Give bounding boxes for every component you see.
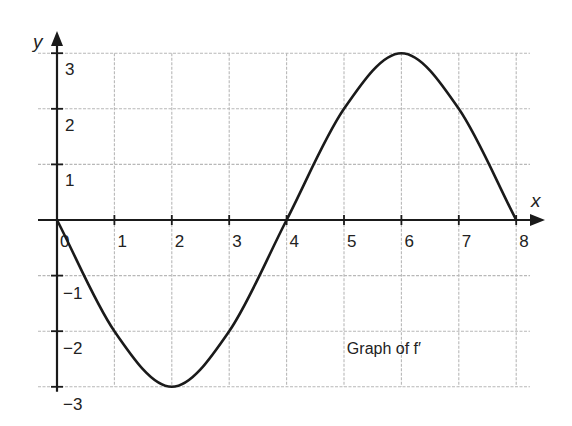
x-tick-label: 8 <box>519 232 528 251</box>
graph-annotation: Graph of f′ <box>347 340 421 357</box>
chart: 012345678−3−2−1123 x y Graph of f′ <box>0 0 572 426</box>
y-axis-label: y <box>31 31 44 52</box>
x-tick-label: 4 <box>290 232 299 251</box>
y-tick-label: −1 <box>63 284 82 303</box>
y-tick-label: 2 <box>65 116 74 135</box>
y-axis-arrow-icon <box>51 31 63 46</box>
x-tick-label: 1 <box>117 232 126 251</box>
y-tick-label: 3 <box>65 60 74 79</box>
x-tick-label: 7 <box>462 232 471 251</box>
x-axis-label: x <box>530 190 542 211</box>
y-tick-label: −3 <box>63 395 82 414</box>
x-tick-label: 3 <box>232 232 241 251</box>
x-tick-label: 6 <box>404 232 413 251</box>
y-tick-label: 1 <box>65 171 74 190</box>
x-axis-arrow-icon <box>530 214 545 226</box>
y-tick-label: −2 <box>63 339 82 358</box>
x-tick-label: 2 <box>175 232 184 251</box>
x-tick-label: 5 <box>347 232 356 251</box>
